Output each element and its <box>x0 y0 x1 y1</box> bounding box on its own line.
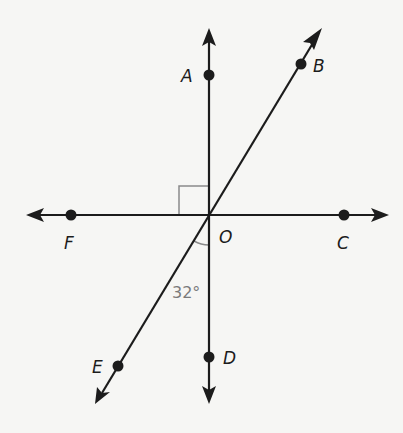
right-angle-mark <box>179 186 209 215</box>
angle-arc-32 <box>194 241 209 245</box>
label-A: A <box>180 66 193 86</box>
point-D <box>204 352 215 363</box>
point-E <box>113 361 124 372</box>
point-B <box>296 59 307 70</box>
angle-label-32: 32° <box>172 283 200 302</box>
arrow-upright-icon <box>303 28 322 50</box>
label-C: C <box>337 233 349 253</box>
label-F: F <box>64 233 74 253</box>
point-A <box>204 70 215 81</box>
point-F <box>66 210 77 221</box>
arrow-downleft-icon <box>95 387 110 404</box>
label-D: D <box>223 348 236 368</box>
geometry-diagram: A B C D E F O 32° <box>0 0 403 433</box>
point-C <box>339 210 350 221</box>
label-E: E <box>92 357 103 377</box>
label-O: O <box>219 227 232 247</box>
diagram-canvas: A B C D E F O 32° <box>0 0 403 433</box>
label-B: B <box>313 56 325 76</box>
